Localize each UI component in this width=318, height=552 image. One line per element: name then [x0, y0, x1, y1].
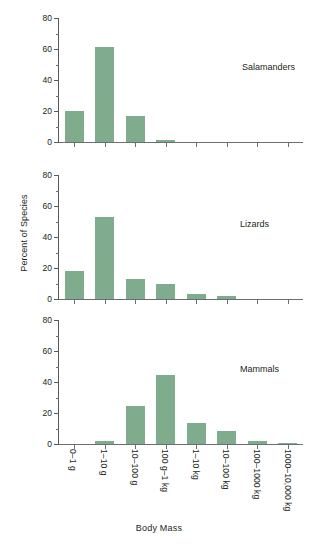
y-axis-tick-label: 20: [43, 408, 52, 418]
x-axis-tick: [105, 299, 106, 304]
y-axis-tick: [54, 49, 59, 50]
bar-slot: [242, 320, 273, 444]
bar-slot: [212, 175, 243, 299]
y-axis-minor-tick: [56, 398, 59, 399]
bar-slot: [151, 18, 182, 142]
bar-slot: [151, 175, 182, 299]
x-tick-label-slot: 1000–10,000 kg: [272, 449, 303, 519]
bar: [156, 375, 175, 444]
y-axis-minor-tick: [56, 222, 59, 223]
y-axis-tick: [54, 299, 59, 300]
bar-slot: [273, 320, 304, 444]
x-axis-tick-label: 1–10 g: [99, 449, 109, 476]
bar: [217, 431, 236, 444]
bar-slot: [90, 18, 121, 142]
x-tick-label-slot: 100–1000 kg: [242, 449, 273, 519]
x-axis-title: Body Mass: [0, 523, 318, 533]
bar-slot: [273, 175, 304, 299]
bar: [65, 271, 84, 299]
panel-lizards: Lizards 020406080: [0, 175, 318, 305]
x-axis-tick-label: 1–10 kg: [191, 449, 201, 480]
x-axis-tick: [288, 299, 289, 304]
bar-slot: [59, 320, 90, 444]
x-tick-label-slot: 1–10 g: [89, 449, 120, 519]
y-axis-tick: [54, 142, 59, 143]
y-axis-tick-label: 40: [43, 377, 52, 387]
x-tick-label-slot: 10–100 g: [119, 449, 150, 519]
y-axis-minor-tick: [56, 34, 59, 35]
y-axis-tick: [54, 444, 59, 445]
bar: [126, 116, 145, 142]
bar-slot: [59, 18, 90, 142]
x-axis-tick: [166, 142, 167, 147]
bar-group-salamanders: [59, 18, 303, 142]
y-axis-minor-tick: [56, 284, 59, 285]
bar-slot: [212, 18, 243, 142]
y-axis-minor-tick: [56, 127, 59, 128]
panel-mammals: Mammals 020406080: [0, 320, 318, 450]
y-axis-minor-tick: [56, 65, 59, 66]
x-axis-tick-label: 100 g–1 kg: [160, 449, 170, 492]
y-axis-minor-tick: [56, 429, 59, 430]
y-axis-tick-label: 40: [43, 232, 52, 242]
y-axis-tick-label: 0: [47, 294, 52, 304]
y-axis-tick-label: 60: [43, 201, 52, 211]
panel-label-mammals: Mammals: [240, 364, 279, 374]
x-axis-tick-label: 10–100 kg: [221, 449, 231, 490]
x-axis-tick: [257, 142, 258, 147]
x-axis-tick: [105, 142, 106, 147]
y-axis-tick-label: 40: [43, 75, 52, 85]
bar: [126, 279, 145, 299]
bar-slot: [212, 320, 243, 444]
bar: [95, 47, 114, 142]
plot-area-salamanders: Salamanders 020406080: [58, 18, 303, 143]
y-axis-tick: [54, 351, 59, 352]
y-axis-tick-label: 80: [43, 170, 52, 180]
x-axis-tick-labels: 0–1 g1–10 g10–100 g100 g–1 kg1–10 kg10–1…: [58, 449, 303, 519]
bar: [95, 217, 114, 299]
y-axis-minor-tick: [56, 191, 59, 192]
y-axis-minor-tick: [56, 96, 59, 97]
x-tick-label-slot: 0–1 g: [58, 449, 89, 519]
bar-group-lizards: [59, 175, 303, 299]
bar-slot: [181, 18, 212, 142]
y-axis-tick: [54, 382, 59, 383]
x-axis-tick-label: 0–1 g: [68, 449, 78, 471]
bar-slot: [120, 320, 151, 444]
y-axis-minor-tick: [56, 367, 59, 368]
bar: [65, 111, 84, 142]
x-axis-tick-label: 100–1000 kg: [252, 449, 262, 499]
bar: [126, 406, 145, 444]
bar-slot: [242, 18, 273, 142]
x-axis-tick: [257, 299, 258, 304]
y-axis-minor-tick: [56, 253, 59, 254]
bar-slot: [59, 175, 90, 299]
x-axis-tick: [135, 299, 136, 304]
x-axis-tick: [196, 142, 197, 147]
bar-slot: [90, 175, 121, 299]
y-axis-tick-label: 60: [43, 346, 52, 356]
y-axis-tick-label: 0: [47, 137, 52, 147]
plot-area-lizards: Lizards 020406080: [58, 175, 303, 300]
x-axis-tick: [288, 142, 289, 147]
y-axis-tick: [54, 80, 59, 81]
x-axis-tick: [74, 299, 75, 304]
figure: Percent of Species Salamanders 020406080…: [0, 0, 318, 552]
x-axis-tick: [227, 142, 228, 147]
bar-group-mammals: [59, 320, 303, 444]
x-axis-tick: [166, 299, 167, 304]
y-axis-tick-label: 20: [43, 106, 52, 116]
panel-label-salamanders: Salamanders: [242, 62, 295, 72]
plot-area-mammals: Mammals 020406080: [58, 320, 303, 445]
y-axis-tick: [54, 206, 59, 207]
y-axis-tick: [54, 268, 59, 269]
x-axis-tick-label: 1000–10,000 kg: [283, 449, 293, 511]
x-axis-tick: [74, 142, 75, 147]
y-axis-tick: [54, 237, 59, 238]
x-tick-label-slot: 10–100 kg: [211, 449, 242, 519]
bar-slot: [242, 175, 273, 299]
bar: [156, 284, 175, 300]
y-axis-tick-label: 80: [43, 315, 52, 325]
y-axis-tick: [54, 175, 59, 176]
y-axis-tick: [54, 320, 59, 321]
